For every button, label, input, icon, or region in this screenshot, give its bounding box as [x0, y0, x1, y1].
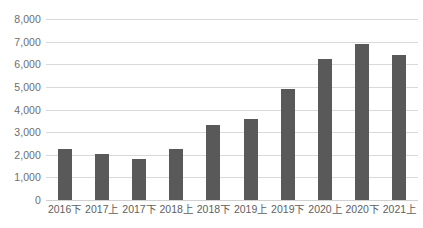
- bar-chart: 8,0007,0006,0005,0004,0003,0002,0001,000…: [0, 0, 423, 228]
- bars-layer: [46, 19, 418, 200]
- y-tick-label: 6,000: [0, 59, 41, 70]
- y-tick-label: 3,000: [0, 127, 41, 138]
- y-axis: 8,0007,0006,0005,0004,0003,0002,0001,000…: [0, 0, 41, 228]
- bar[interactable]: [169, 149, 183, 200]
- y-tick-label: 0: [0, 195, 41, 206]
- bar[interactable]: [244, 119, 258, 200]
- chart-title: [0, 0, 423, 7]
- bar[interactable]: [206, 125, 220, 200]
- y-tick-label: 2,000: [0, 150, 41, 161]
- x-tick-label: 2021上: [377, 203, 421, 216]
- bar[interactable]: [355, 44, 369, 200]
- axis-baseline: [46, 200, 418, 201]
- x-axis: 2016下2017上2017下2018上2018下2019上2019下2020上…: [46, 203, 418, 225]
- bar[interactable]: [132, 159, 146, 200]
- bar[interactable]: [58, 149, 72, 200]
- y-tick-label: 1,000: [0, 172, 41, 183]
- y-tick-label: 8,000: [0, 14, 41, 25]
- y-tick-label: 7,000: [0, 37, 41, 48]
- bar[interactable]: [281, 89, 295, 200]
- y-tick-label: 4,000: [0, 105, 41, 116]
- bar[interactable]: [318, 59, 332, 200]
- bar[interactable]: [392, 55, 406, 200]
- y-tick-label: 5,000: [0, 82, 41, 93]
- bar[interactable]: [95, 154, 109, 200]
